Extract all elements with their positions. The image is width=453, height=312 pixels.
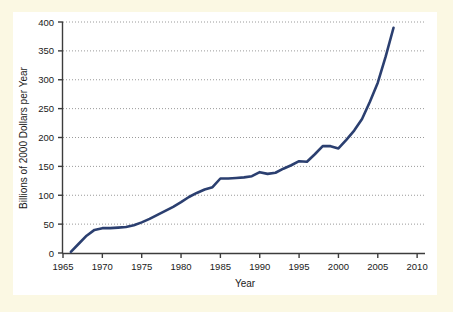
data-series-line <box>71 28 394 252</box>
chart-panel: 050100150200250300350400 196519701975198… <box>13 12 437 295</box>
x-tick-label: 2000 <box>328 261 349 272</box>
gridlines-group <box>63 22 425 224</box>
x-tick-label: 1965 <box>52 261 73 272</box>
y-tick-label: 150 <box>38 161 54 172</box>
y-tick-label: 0 <box>49 248 54 259</box>
line-chart: 050100150200250300350400 196519701975198… <box>13 12 437 295</box>
figure-root: 050100150200250300350400 196519701975198… <box>0 0 453 312</box>
y-tick-label: 300 <box>38 74 54 85</box>
y-tick-label: 350 <box>38 45 54 56</box>
x-tick-label: 1990 <box>249 261 270 272</box>
y-axis-title: Billions of 2000 Dollars per Year <box>18 66 29 208</box>
x-tick-label: 1980 <box>170 261 191 272</box>
x-tick-label: 1970 <box>92 261 113 272</box>
x-tick-label: 1975 <box>131 261 152 272</box>
x-tick-label: 1985 <box>210 261 231 272</box>
y-tick-label: 200 <box>38 132 54 143</box>
y-tick-label: 50 <box>43 219 54 230</box>
y-tick-label: 400 <box>38 17 54 28</box>
x-tick-label: 1995 <box>289 261 310 272</box>
x-axis-title: Year <box>235 278 256 289</box>
y-tick-label: 250 <box>38 103 54 114</box>
x-tick-labels: 1965197019751980198519901995200020052010 <box>52 261 427 272</box>
y-tick-labels: 050100150200250300350400 <box>38 17 54 259</box>
y-tick-label: 100 <box>38 190 54 201</box>
x-tick-label: 2010 <box>407 261 428 272</box>
x-tick-label: 2005 <box>367 261 388 272</box>
